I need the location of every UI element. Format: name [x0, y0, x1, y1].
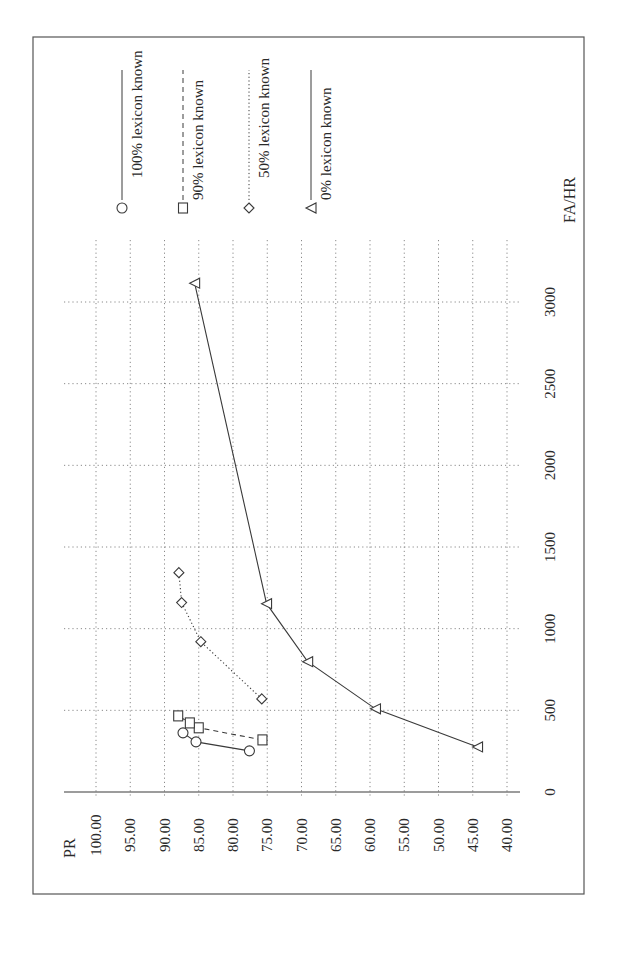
series-circle: [178, 728, 254, 756]
triangle-marker: [473, 742, 483, 752]
circle-marker: [244, 746, 254, 756]
square-marker: [194, 723, 203, 733]
fahr-tick-label: 2500: [542, 369, 558, 399]
triangle-marker: [370, 704, 380, 714]
circle-marker: [178, 728, 188, 738]
triangle-marker: [262, 599, 272, 609]
legend-label: 50% lexicon known: [256, 58, 272, 178]
pr-tick-label: 90.00: [157, 818, 173, 852]
diamond-marker: [244, 203, 254, 213]
y-axis-title: PR: [61, 838, 78, 858]
legend-label: 0% lexicon known: [318, 87, 334, 200]
pr-tick-label: 75.00: [259, 818, 275, 852]
diamond-marker: [257, 694, 267, 704]
pr-tick-label: 80.00: [225, 818, 241, 852]
legend-label: 100% lexicon known: [129, 50, 145, 178]
plot-series: [174, 278, 483, 756]
square-marker: [174, 711, 183, 721]
x-axis-title: FA/HR: [561, 177, 578, 223]
fahr-tick-label: 1500: [542, 532, 558, 562]
pr-tick-label: 55.00: [396, 818, 412, 852]
diamond-marker: [174, 568, 184, 578]
fahr-tick-label: 3000: [542, 287, 558, 317]
square-marker: [258, 735, 267, 745]
circle-marker: [117, 203, 127, 213]
diamond-marker: [177, 598, 187, 608]
pr-tick-label: 60.00: [362, 818, 378, 852]
square-marker: [185, 718, 194, 728]
series-diamond: [174, 568, 267, 704]
triangle-marker: [303, 657, 313, 667]
chart: 100.0095.0090.0085.0080.0075.0070.0065.0…: [0, 0, 622, 966]
pr-tick-label: 70.00: [294, 818, 310, 852]
pr-tick-label: 95.00: [122, 818, 138, 852]
pr-tick-label: 40.00: [499, 818, 515, 852]
legend: 100% lexicon known90% lexicon known50% l…: [117, 50, 334, 213]
series-line: [179, 573, 262, 699]
triangle-marker: [190, 278, 200, 288]
triangle-marker: [306, 203, 316, 213]
square-marker: [179, 203, 188, 213]
pr-tick-label: 65.00: [328, 818, 344, 852]
pr-tick-label: 85.00: [191, 818, 207, 852]
circle-marker: [191, 737, 201, 747]
pr-tick-label: 45.00: [465, 818, 481, 852]
fahr-tick-label: 2000: [542, 450, 558, 480]
fahr-tick-label: 1000: [542, 614, 558, 644]
fahr-tick-label: 0: [542, 788, 558, 796]
grid-lines: [64, 240, 520, 798]
axes: 100.0095.0090.0085.0080.0075.0070.0065.0…: [64, 287, 558, 856]
series-square: [174, 711, 267, 745]
fahr-tick-label: 500: [542, 699, 558, 722]
legend-label: 90% lexicon known: [190, 80, 206, 200]
pr-tick-label: 100.00: [88, 814, 104, 855]
pr-tick-label: 50.00: [431, 818, 447, 852]
